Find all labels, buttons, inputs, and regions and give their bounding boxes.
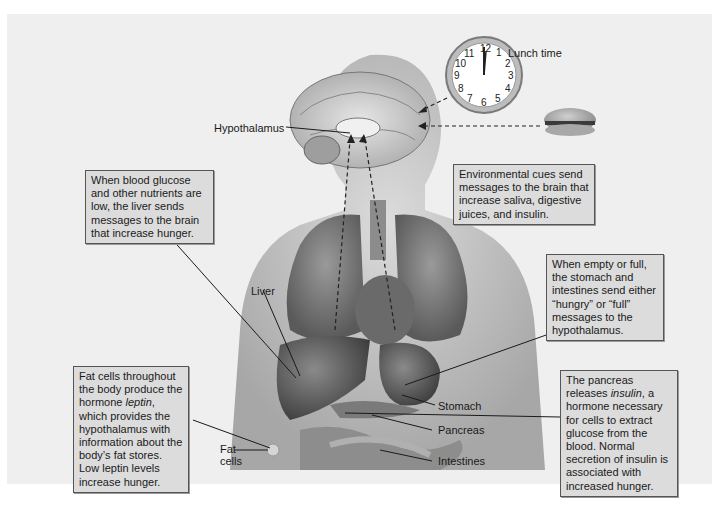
label-stomach: Stomach (438, 400, 481, 412)
fat-cells (267, 444, 279, 456)
label-fat-cells-line2: cells (220, 455, 242, 467)
svg-text:11: 11 (464, 48, 475, 59)
label-hypothalamus: Hypothalamus (214, 122, 284, 134)
heart (355, 275, 415, 345)
svg-text:1: 1 (496, 47, 502, 58)
svg-text:4: 4 (505, 83, 511, 94)
callout-liver: When blood glucose and other nutrients a… (85, 170, 214, 244)
label-fat-cells: Fat cells (220, 443, 242, 467)
svg-text:5: 5 (495, 93, 501, 104)
callout-pancreas: The pancreas releases insulin, a hormone… (560, 370, 678, 497)
svg-text:6: 6 (481, 97, 487, 108)
brain (290, 72, 430, 168)
callout-fat-cells: Fat cells throughout the body produce th… (73, 366, 189, 493)
svg-text:9: 9 (454, 70, 460, 81)
svg-text:10: 10 (455, 58, 467, 69)
callout-fat-text-b: , which provides the hypothalamus with i… (79, 396, 182, 487)
label-pancreas: Pancreas (438, 424, 484, 436)
svg-text:3: 3 (508, 70, 514, 81)
callout-stomach-intestines: When empty or full, the stomach and inte… (546, 254, 664, 341)
callout-pancreas-text-b: , a hormone necessary for cells to extra… (566, 387, 668, 491)
callout-fat-term: leptin (125, 396, 151, 408)
callout-pancreas-term: insulin (611, 387, 642, 399)
svg-text:8: 8 (458, 83, 464, 94)
svg-text:7: 7 (467, 93, 473, 104)
label-fat-cells-line1: Fat (220, 443, 236, 455)
label-intestines: Intestines (438, 455, 485, 467)
svg-text:2: 2 (505, 58, 511, 69)
clock-caption: Lunch time (508, 47, 562, 59)
hamburger-icon (544, 108, 596, 136)
label-liver: Liver (251, 285, 275, 297)
callout-environmental-cues: Environmental cues send messages to the … (453, 164, 595, 225)
